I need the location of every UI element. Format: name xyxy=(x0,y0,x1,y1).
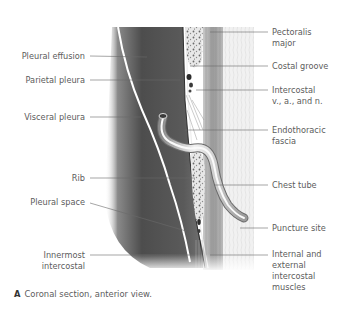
label-chest-tube: Chest tube xyxy=(272,180,317,191)
label-visceral-pleura: Visceral pleura xyxy=(24,112,85,123)
figure-caption: ACoronal section, anterior view. xyxy=(14,289,152,299)
label-text: major xyxy=(272,38,312,49)
label-pleural-space: Pleural space xyxy=(30,197,85,208)
label-text: v., a., and n. xyxy=(272,96,323,107)
label-endothoracic-fascia: Endothoracic fascia xyxy=(272,125,326,147)
label-text: intercostal xyxy=(272,271,322,282)
label-text: external xyxy=(272,260,322,271)
label-innermost-intercostal: Innermost intercostal xyxy=(42,250,85,272)
label-text: Parietal pleura xyxy=(26,75,85,86)
label-text: Costal groove xyxy=(272,61,328,72)
label-text: Intercostal xyxy=(272,85,323,96)
label-text: Pleural space xyxy=(30,197,85,208)
label-text: Pleural effusion xyxy=(22,51,85,62)
label-intercostal-muscles: Internal and external intercostal muscle… xyxy=(272,249,322,293)
label-text: Chest tube xyxy=(272,180,317,191)
label-costal-groove: Costal groove xyxy=(272,61,328,72)
label-text: Puncture site xyxy=(272,223,326,234)
label-text: Rib xyxy=(72,173,85,184)
label-text: Innermost xyxy=(42,250,85,261)
label-parietal-pleura: Parietal pleura xyxy=(26,75,85,86)
label-text: Endothoracic xyxy=(272,125,326,136)
label-text: Pectoralis xyxy=(272,27,312,38)
caption-text: Coronal section, anterior view. xyxy=(24,289,151,299)
label-text: Internal and xyxy=(272,249,322,260)
label-intercostal-vessels-nerve: Intercostal v., a., and n. xyxy=(272,85,323,107)
label-puncture-site: Puncture site xyxy=(272,223,326,234)
label-rib: Rib xyxy=(72,173,85,184)
caption-letter: A xyxy=(14,289,20,299)
label-pectoralis-major: Pectoralis major xyxy=(272,27,312,49)
label-text: fascia xyxy=(272,136,326,147)
label-pleural-effusion: Pleural effusion xyxy=(22,51,85,62)
label-text: Visceral pleura xyxy=(24,112,85,123)
label-text: intercostal xyxy=(42,261,85,272)
label-text: muscles xyxy=(272,282,322,293)
anatomy-figure: Pleural effusion Parietal pleura Viscera… xyxy=(0,0,347,314)
